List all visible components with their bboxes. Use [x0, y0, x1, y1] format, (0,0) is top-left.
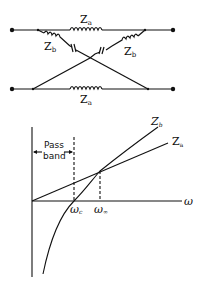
label-za-top: Za: [80, 13, 92, 27]
terminal-bottom-left: [10, 87, 14, 91]
capacitor-right-plate2-icon: [99, 47, 101, 54]
node-bottom-left: [32, 88, 34, 90]
terminal-top-left: [10, 28, 14, 32]
node-bottom-right: [147, 88, 149, 90]
inductor-za-bottom-icon: [70, 87, 102, 90]
capacitor-left-plate1-icon: [71, 44, 73, 52]
label-za-bottom: Za: [80, 93, 92, 107]
terminal-bottom-right: [171, 87, 175, 91]
za-line-label: Za: [172, 135, 184, 148]
cutoff-label: ωc: [70, 203, 83, 216]
node-top-left: [37, 29, 39, 31]
capacitor-right-plate1-icon: [102, 47, 104, 54]
lattice-circuit: [12, 28, 173, 90]
passband-label-line2: band: [43, 151, 66, 161]
inductor-za-top-icon: [70, 28, 102, 31]
label-zb-right: Zb: [124, 45, 137, 59]
capacitor-left-plate2-icon: [74, 44, 76, 52]
lattice-filter-figure: Za Za Zb Zb Pass band ω ωc ω∞ Zb Za: [0, 0, 202, 282]
terminal-top-right: [171, 28, 175, 32]
node-top-right: [144, 29, 146, 31]
label-zb-left: Zb: [44, 40, 57, 54]
infinity-label: ω∞: [94, 203, 108, 216]
zb-curve-label: Zb: [150, 115, 163, 128]
passband-label-line1: Pass: [44, 140, 64, 150]
x-axis-label: ω: [184, 195, 193, 208]
